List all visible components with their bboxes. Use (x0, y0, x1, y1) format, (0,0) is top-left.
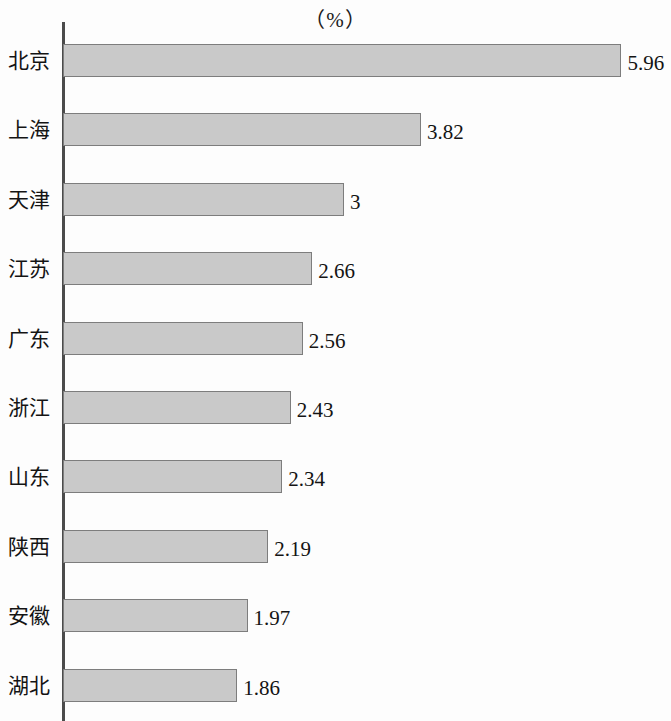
bar (63, 113, 421, 146)
category-label: 上海 (8, 120, 61, 141)
bar (63, 183, 344, 216)
plot-area: 北京5.96上海3.82天津3江苏2.66广东2.56浙江2.43山东2.34陕… (0, 0, 671, 721)
bar (63, 322, 303, 355)
bar-chart: （%） 北京5.96上海3.82天津3江苏2.66广东2.56浙江2.43山东2… (0, 0, 671, 721)
bar-value-label: 2.43 (297, 400, 334, 421)
category-label: 安徽 (8, 606, 61, 627)
bar (63, 530, 268, 563)
bar-value-label: 2.34 (288, 469, 325, 490)
bar-value-label: 3 (350, 192, 361, 213)
category-label: 浙江 (8, 398, 61, 419)
bar (63, 669, 237, 702)
bar-value-label: 1.86 (243, 678, 280, 699)
bar-value-label: 3.82 (427, 122, 464, 143)
bar (63, 599, 248, 632)
category-label: 北京 (8, 51, 61, 72)
category-label: 广东 (8, 329, 61, 350)
category-label: 江苏 (8, 259, 61, 280)
bar (63, 252, 312, 285)
bar-value-label: 2.66 (318, 261, 355, 282)
bar (63, 391, 291, 424)
category-label: 山东 (8, 467, 61, 488)
bar-value-label: 1.97 (254, 608, 291, 629)
bar (63, 460, 282, 493)
category-label: 陕西 (8, 537, 61, 558)
category-label: 天津 (8, 190, 61, 211)
bar-value-label: 2.19 (274, 539, 311, 560)
bar-value-label: 5.96 (627, 53, 664, 74)
bar (63, 44, 621, 77)
category-label: 湖北 (8, 676, 61, 697)
bar-value-label: 2.56 (309, 331, 346, 352)
